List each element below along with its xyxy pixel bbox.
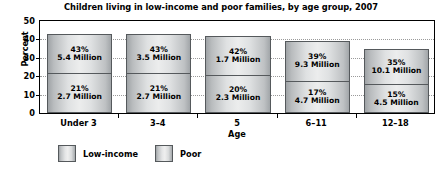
stacked-bar[interactable]: 42% 1.7 Million 20% 2.3 Million [205, 36, 270, 113]
bar-category-12-18: 35% 10.1 Million 15% 4.5 Million [357, 21, 436, 113]
bar-segment-poor[interactable]: 15% 4.5 Million [364, 85, 429, 113]
x-tick-label-3-4: 3–4 [118, 118, 197, 128]
x-tick-label-under-3: Under 3 [39, 118, 118, 128]
bar-category-6-11: 39% 9.3 Million 17% 4.7 Million [278, 21, 357, 113]
bar-segment-count: 2.7 Million [136, 93, 181, 101]
bar-segment-count: 2.7 Million [57, 93, 102, 101]
legend-item-poor[interactable]: Poor [155, 145, 201, 162]
y-axis-ticks: 50 40 30 20 10 0 [13, 0, 35, 171]
x-tick-label-12-18: 12–18 [356, 118, 435, 128]
legend-label: Poor [180, 149, 201, 159]
x-tick-label-6-11: 6–11 [277, 118, 356, 128]
y-tick-label: 50 [15, 17, 35, 25]
bar-segment-count: 5.4 Million [57, 54, 102, 62]
bar-segment-poor[interactable]: 21% 2.7 Million [126, 74, 191, 113]
bar-group: 43% 5.4 Million 21% 2.7 Million 43% 3.5 … [40, 21, 434, 113]
y-tick-label: 20 [15, 72, 35, 80]
bar-segment-low-income[interactable]: 35% 10.1 Million [364, 49, 429, 86]
chart-legend: Low-income Poor [58, 145, 218, 162]
x-tick-label-5: 5 [197, 118, 276, 128]
chart-title: Children living in low-income and poor f… [0, 2, 442, 12]
bar-segment-poor[interactable]: 20% 2.3 Million [205, 76, 270, 113]
chart-figure: Children living in low-income and poor f… [0, 0, 442, 171]
bar-segment-low-income[interactable]: 43% 5.4 Million [47, 34, 112, 75]
stacked-bar[interactable]: 43% 5.4 Million 21% 2.7 Million [47, 34, 112, 113]
stacked-bar[interactable]: 43% 3.5 Million 21% 2.7 Million [126, 34, 191, 113]
bar-category-3-4: 43% 3.5 Million 21% 2.7 Million [119, 21, 198, 113]
bar-category-5: 42% 1.7 Million 20% 2.3 Million [198, 21, 277, 113]
y-tick-label: 10 [15, 90, 35, 98]
y-tick-label: 0 [15, 109, 35, 117]
bar-segment-poor[interactable]: 17% 4.7 Million [285, 82, 350, 113]
bar-category-under-3: 43% 5.4 Million 21% 2.7 Million [40, 21, 119, 113]
bar-segment-count: 4.5 Million [374, 99, 419, 107]
y-tick-label: 30 [15, 54, 35, 62]
legend-item-low-income[interactable]: Low-income [58, 145, 138, 162]
x-axis-label: Age [39, 129, 435, 139]
bar-segment-low-income[interactable]: 39% 9.3 Million [285, 41, 350, 82]
legend-label: Low-income [83, 149, 138, 159]
bar-segment-poor[interactable]: 21% 2.7 Million [47, 74, 112, 113]
stacked-bar[interactable]: 39% 9.3 Million 17% 4.7 Million [285, 41, 350, 113]
y-tick-label: 40 [15, 35, 35, 43]
bar-segment-count: 9.3 Million [295, 61, 340, 69]
legend-swatch-icon [155, 145, 173, 162]
bar-segment-count: 1.7 Million [216, 56, 261, 64]
bar-segment-count: 4.7 Million [295, 97, 340, 105]
bar-segment-low-income[interactable]: 42% 1.7 Million [205, 36, 270, 77]
bar-segment-count: 2.3 Million [216, 94, 261, 102]
plot-area: 43% 5.4 Million 21% 2.7 Million 43% 3.5 … [39, 20, 435, 114]
stacked-bar[interactable]: 35% 10.1 Million 15% 4.5 Million [364, 49, 429, 113]
bar-segment-count: 10.1 Million [371, 67, 421, 75]
bar-segment-count: 3.5 Million [136, 54, 181, 62]
legend-swatch-icon [58, 145, 76, 162]
bar-segment-low-income[interactable]: 43% 3.5 Million [126, 34, 191, 75]
